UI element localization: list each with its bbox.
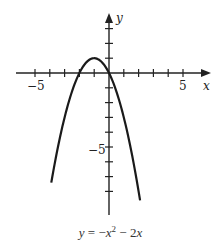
y-axis-arrow-icon <box>105 13 113 23</box>
parabola-chart: −5 5 −5 x y <box>0 0 221 250</box>
x-tick-label-5: 5 <box>179 79 187 93</box>
equation-caption: y = −x2 − 2x <box>0 224 221 241</box>
y-axis-label: y <box>115 11 123 25</box>
caption-rest: − 2 <box>116 225 136 240</box>
y-tick-label-neg5: −5 <box>88 143 106 157</box>
axes <box>16 13 211 215</box>
parabola-curve <box>51 58 140 200</box>
x-axis-arrow-icon <box>201 69 211 77</box>
x-tick-label-neg5: −5 <box>27 79 45 93</box>
caption-x2: x <box>136 225 142 240</box>
caption-eq: = − <box>85 225 106 240</box>
x-axis-label: x <box>203 79 210 93</box>
